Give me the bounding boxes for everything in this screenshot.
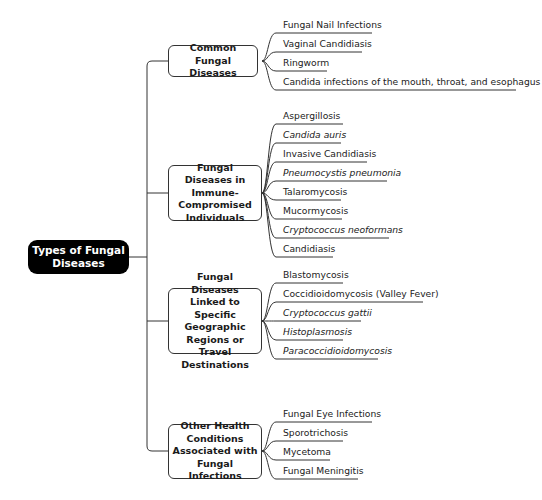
leaf-item: Blastomycosis bbox=[283, 269, 349, 281]
category-label: Common Fungal Diseases bbox=[172, 42, 254, 80]
category-geographic-regions: Fungal Diseases Linked to Specific Geogr… bbox=[168, 288, 262, 354]
category-immune-compromised: Fungal Diseases in Immune-Compromised In… bbox=[168, 165, 262, 221]
leaf-item: Candida auris bbox=[283, 129, 346, 141]
root-label: Types of Fungal Diseases bbox=[32, 244, 125, 270]
leaf-item: Coccidioidomycosis (Valley Fever) bbox=[283, 288, 439, 300]
leaf-item: Mycetoma bbox=[283, 446, 331, 458]
leaf-item: Vaginal Candidiasis bbox=[283, 38, 372, 50]
leaf-item: Talaromycosis bbox=[283, 186, 347, 198]
leaf-item: Fungal Nail Infections bbox=[283, 19, 382, 31]
category-label: Other Health Conditions Associated with … bbox=[172, 420, 258, 483]
leaf-item: Ringworm bbox=[283, 57, 329, 69]
category-label: Fungal Diseases Linked to Specific Geogr… bbox=[172, 271, 258, 371]
leaf-item: Candidiasis bbox=[283, 243, 335, 255]
leaf-item: Fungal Eye Infections bbox=[283, 408, 381, 420]
root-node: Types of Fungal Diseases bbox=[28, 240, 129, 274]
leaf-item: Invasive Candidiasis bbox=[283, 148, 376, 160]
leaf-item: Pneumocystis pneumonia bbox=[283, 167, 401, 179]
leaf-item: Candida infections of the mouth, throat,… bbox=[283, 76, 540, 88]
category-common-fungal-diseases: Common Fungal Diseases bbox=[168, 45, 258, 77]
category-other-health-conditions: Other Health Conditions Associated with … bbox=[168, 424, 262, 479]
category-label: Fungal Diseases in Immune-Compromised In… bbox=[172, 162, 258, 225]
leaf-item: Cryptococcus gattii bbox=[283, 307, 372, 319]
leaf-item: Cryptococcus neoformans bbox=[283, 224, 403, 236]
leaf-item: Histoplasmosis bbox=[283, 326, 352, 338]
leaf-item: Aspergillosis bbox=[283, 110, 340, 122]
leaf-item: Paracoccidioidomycosis bbox=[283, 345, 392, 357]
leaf-item: Sporotrichosis bbox=[283, 427, 348, 439]
leaf-item: Mucormycosis bbox=[283, 205, 348, 217]
leaf-item: Fungal Meningitis bbox=[283, 465, 363, 477]
